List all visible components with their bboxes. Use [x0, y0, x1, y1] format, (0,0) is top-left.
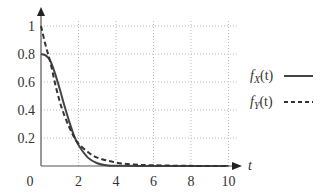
x-tick-label: 6 [150, 174, 157, 189]
y-tick-label: 0.4 [18, 103, 36, 118]
y-tick-label: 0.2 [18, 131, 36, 146]
grid-lines [41, 19, 238, 166]
axes [37, 7, 242, 170]
y-tick-label: 1 [28, 19, 35, 34]
series-fy-line [41, 26, 229, 166]
x-tick-label: 10 [222, 174, 236, 189]
legend-fy-label: fY(t) [250, 94, 273, 111]
x-tick-label: 2 [75, 174, 82, 189]
x-axis-arrow-icon [232, 162, 242, 170]
density-chart: 02468100.20.40.60.81 t fX(t) fY(t) [0, 0, 329, 193]
x-tick-label: 0 [27, 174, 34, 189]
x-tick-label: 8 [188, 174, 195, 189]
y-axis-arrow-icon [37, 7, 45, 16]
x-axis-label: t [248, 158, 253, 173]
y-tick-label: 0.8 [18, 47, 36, 62]
x-tick-label: 4 [113, 174, 120, 189]
y-tick-label: 0.6 [18, 75, 36, 90]
legend-fx-label: fX(t) [250, 68, 274, 85]
legend: fX(t) fY(t) [250, 68, 313, 111]
